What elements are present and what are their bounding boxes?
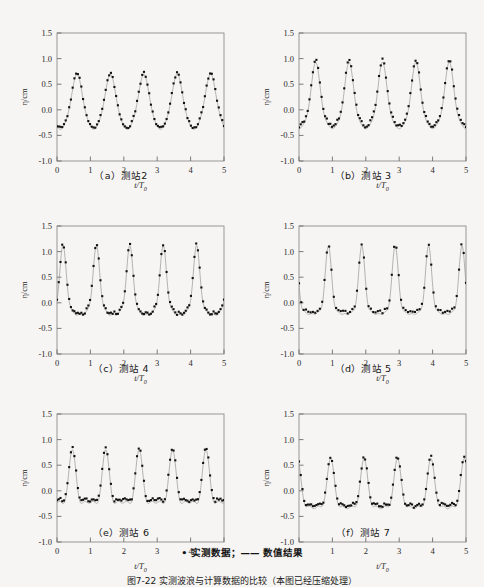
measured-data-point bbox=[357, 114, 359, 116]
measured-data-point bbox=[173, 450, 175, 452]
measured-data-point bbox=[421, 503, 423, 505]
measured-data-point bbox=[392, 116, 394, 118]
measured-data-point bbox=[310, 84, 312, 86]
measured-data-point bbox=[314, 312, 316, 314]
measured-data-point bbox=[369, 496, 371, 498]
measured-data-point bbox=[176, 314, 178, 316]
measured-data-point bbox=[136, 455, 138, 457]
measured-data-point bbox=[190, 125, 192, 127]
measured-data-point bbox=[308, 98, 310, 100]
measured-data-point bbox=[298, 460, 300, 462]
measured-data-point bbox=[204, 95, 206, 97]
measured-data-point bbox=[127, 249, 129, 251]
measured-data-point bbox=[202, 300, 204, 302]
measured-data-point bbox=[317, 310, 319, 312]
measured-data-point bbox=[216, 100, 218, 102]
measured-data-point bbox=[317, 67, 319, 69]
measured-data-point bbox=[406, 113, 408, 115]
measured-data-point bbox=[101, 108, 103, 110]
measured-data-point bbox=[219, 308, 221, 310]
measured-data-point bbox=[70, 451, 72, 453]
measured-data-point bbox=[169, 301, 171, 303]
measured-data-point bbox=[449, 60, 451, 62]
measured-data-point bbox=[411, 503, 413, 505]
y-tick-label: -0.5 bbox=[281, 511, 294, 521]
measured-data-point bbox=[162, 501, 164, 503]
measured-data-point bbox=[143, 71, 145, 73]
measured-data-point bbox=[66, 115, 68, 117]
measured-data-point bbox=[89, 299, 91, 301]
measured-data-point bbox=[117, 313, 119, 315]
measured-data-point bbox=[206, 448, 208, 450]
measured-data-point bbox=[321, 301, 323, 303]
measured-data-point bbox=[397, 458, 399, 460]
measured-data-point bbox=[331, 460, 333, 462]
measured-data-point bbox=[185, 310, 187, 312]
plot-frame bbox=[299, 33, 466, 161]
measured-data-point bbox=[117, 104, 119, 106]
measured-data-point bbox=[103, 452, 105, 454]
measured-data-point bbox=[141, 465, 143, 467]
measured-data-point bbox=[143, 313, 145, 315]
measured-data-point bbox=[108, 74, 110, 76]
measured-data-point bbox=[420, 88, 422, 90]
measured-data-point bbox=[169, 459, 171, 461]
measured-data-point bbox=[223, 125, 225, 127]
measured-data-point bbox=[399, 465, 401, 467]
measured-data-point bbox=[162, 125, 164, 127]
measured-data-point bbox=[174, 311, 176, 313]
measured-data-point bbox=[160, 253, 162, 255]
y-tick-label: 1.0 bbox=[41, 54, 52, 64]
measured-data-point bbox=[103, 99, 105, 101]
y-tick-label: 0.0 bbox=[283, 298, 294, 308]
measured-data-point bbox=[404, 119, 406, 121]
measured-data-point bbox=[80, 86, 82, 88]
measured-data-point bbox=[365, 288, 367, 290]
measured-data-point bbox=[322, 502, 324, 504]
measured-data-point bbox=[86, 114, 88, 116]
measured-data-point bbox=[439, 309, 441, 311]
measured-data-point bbox=[427, 472, 429, 474]
measured-data-point bbox=[405, 309, 407, 311]
measured-data-point bbox=[383, 62, 385, 64]
measured-data-point bbox=[138, 91, 140, 93]
measured-data-point bbox=[209, 474, 211, 476]
numerical-result-curve bbox=[57, 450, 224, 504]
measured-data-point bbox=[368, 482, 370, 484]
measured-data-point bbox=[61, 244, 63, 246]
measured-data-point bbox=[430, 455, 432, 457]
measured-data-point bbox=[129, 125, 131, 127]
measured-data-point bbox=[131, 254, 133, 256]
x-axis-label: t/T0 bbox=[376, 561, 389, 573]
y-tick-label: 1.0 bbox=[41, 435, 52, 445]
measured-data-point bbox=[119, 113, 121, 115]
measured-data-point bbox=[437, 119, 439, 121]
measured-data-point bbox=[439, 115, 441, 117]
measured-data-point bbox=[134, 293, 136, 295]
measured-data-point bbox=[167, 291, 169, 293]
measured-data-point bbox=[167, 474, 169, 476]
y-tick-label: 1.5 bbox=[41, 28, 52, 38]
measured-data-point bbox=[449, 504, 451, 506]
measured-data-point bbox=[423, 287, 425, 289]
measured-data-point bbox=[342, 310, 344, 312]
measured-data-point bbox=[379, 310, 381, 312]
measured-data-point bbox=[401, 479, 403, 481]
measured-data-point bbox=[223, 499, 225, 501]
plot-frame bbox=[299, 414, 466, 542]
measured-data-point bbox=[376, 91, 378, 93]
measured-data-point bbox=[207, 456, 209, 458]
measured-data-point bbox=[213, 78, 215, 80]
measured-data-point bbox=[361, 243, 363, 245]
measured-data-point bbox=[61, 126, 63, 128]
measured-data-point bbox=[171, 92, 173, 94]
measured-data-point bbox=[387, 90, 389, 92]
y-tick-label: 1.5 bbox=[41, 221, 52, 231]
measured-data-point bbox=[356, 290, 358, 292]
measured-data-point bbox=[92, 265, 94, 267]
measured-data-point bbox=[451, 308, 453, 310]
measured-data-point bbox=[162, 244, 164, 246]
measured-data-point bbox=[77, 73, 79, 75]
measured-data-point bbox=[112, 76, 114, 78]
measured-data-point bbox=[183, 312, 185, 314]
